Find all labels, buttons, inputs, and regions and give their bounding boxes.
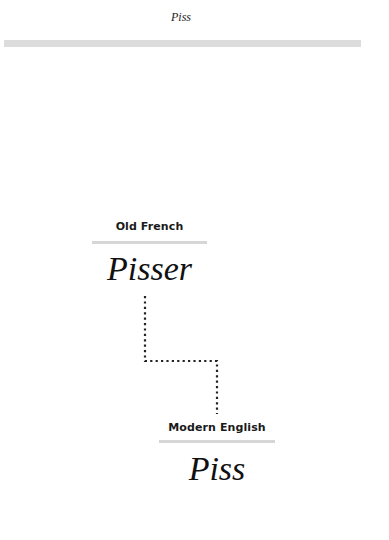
stage-word: Piss — [159, 452, 275, 486]
stage-underline — [159, 440, 275, 443]
stage-language-label: Modern English — [159, 421, 275, 434]
